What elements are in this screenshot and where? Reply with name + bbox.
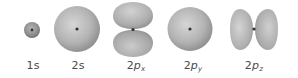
label-2py: 2py: [184, 59, 203, 73]
label-2s: 2s: [71, 59, 84, 72]
orbital-2pz-shape: [230, 9, 278, 50]
label-symbol: s: [34, 59, 40, 72]
label-symbol: s: [79, 59, 85, 72]
label-1s: 1s: [26, 59, 39, 72]
nucleus-dot: [252, 27, 255, 30]
label-2px: 2px: [127, 59, 146, 73]
orbital-1s-shape: [24, 22, 40, 38]
label-2pz: 2pz: [245, 59, 263, 73]
atomic-orbitals-diagram: 1s 2s 2px 2py 2pz: [0, 0, 298, 78]
nucleus-dot: [131, 28, 134, 31]
orbital-2s-shape: [54, 6, 100, 52]
nucleus-dot: [188, 27, 191, 30]
label-subscript: y: [198, 65, 202, 73]
orbital-2px-shape: [113, 2, 153, 57]
label-subscript: z: [259, 65, 263, 73]
nucleus-dot: [31, 29, 34, 32]
nucleus-dot: [75, 27, 78, 30]
label-subscript: x: [141, 65, 145, 73]
orbital-2py-shape: [168, 7, 213, 51]
